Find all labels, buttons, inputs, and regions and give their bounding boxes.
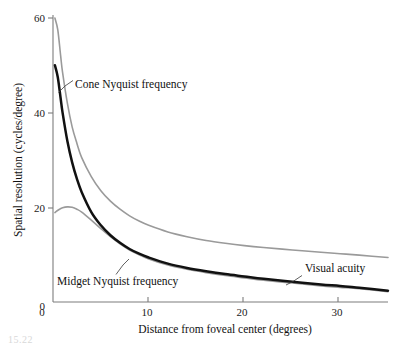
visual-acuity-label: Visual acuity bbox=[305, 262, 366, 275]
chart-annotations: Cone Nyquist frequency Midget Nyquist fr… bbox=[57, 78, 366, 288]
y-axis-ticks bbox=[48, 18, 53, 208]
x-tick-label-30: 30 bbox=[332, 306, 344, 318]
series-visual-acuity bbox=[55, 65, 388, 290]
y-tick-label-40: 40 bbox=[34, 107, 46, 119]
figure-container: 60 40 20 0 0 10 20 30 Distance from fove… bbox=[0, 0, 393, 351]
x-axis-title: Distance from foveal center (degrees) bbox=[138, 323, 312, 336]
midget-nyquist-leader-line bbox=[116, 259, 129, 275]
x-axis-ticks bbox=[148, 297, 338, 302]
midget-nyquist-label: Midget Nyquist frequency bbox=[57, 275, 179, 288]
y-tick-label-20: 20 bbox=[34, 202, 46, 214]
figure-caption-fragment: 15.22 bbox=[8, 334, 33, 345]
x-tick-label-0: 0 bbox=[39, 306, 45, 318]
cone-nyquist-label: Cone Nyquist frequency bbox=[75, 78, 188, 91]
x-axis-tick-labels: 0 10 20 30 bbox=[39, 306, 343, 318]
spatial-resolution-chart: 60 40 20 0 0 10 20 30 Distance from fove… bbox=[0, 0, 393, 351]
chart-series-group bbox=[55, 18, 388, 292]
y-axis-tick-labels: 60 40 20 0 bbox=[34, 12, 46, 312]
series-cone-nyquist-frequency bbox=[55, 18, 388, 258]
chart-axes bbox=[53, 15, 388, 302]
x-tick-label-20: 20 bbox=[237, 306, 249, 318]
y-tick-label-60: 60 bbox=[34, 12, 46, 24]
x-tick-label-10: 10 bbox=[142, 306, 154, 318]
y-axis-title: Spatial resolution (cycles/degree) bbox=[12, 83, 25, 237]
